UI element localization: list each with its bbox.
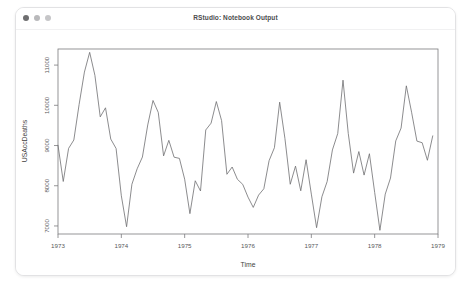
y-tick-label: 10000 — [43, 96, 50, 114]
y-axis-ticks: 7000800090001000011000 — [43, 56, 58, 233]
window-title: RStudio: Notebook Output — [16, 13, 455, 23]
series-line-usaccdeaths — [58, 52, 433, 230]
window-titlebar: RStudio: Notebook Output — [16, 8, 455, 30]
x-tick-label: 1979 — [431, 242, 445, 249]
x-tick-label: 1977 — [304, 242, 318, 249]
time-series-plot: 7000800090001000011000 19731974197519761… — [16, 30, 456, 276]
x-tick-label: 1978 — [368, 242, 382, 249]
y-tick-label: 7000 — [43, 219, 50, 233]
plot-frame — [58, 49, 438, 234]
x-axis-ticks: 1973197419751976197719781979 — [51, 234, 445, 249]
x-tick-label: 1973 — [51, 242, 65, 249]
y-tick-label: 8000 — [43, 178, 50, 192]
x-axis-title: Time — [241, 261, 256, 268]
y-tick-label: 11000 — [43, 56, 50, 73]
y-axis-title: USAccDeaths — [21, 119, 28, 162]
plot-pane: 7000800090001000011000 19731974197519761… — [16, 30, 456, 276]
x-tick-label: 1976 — [241, 242, 255, 249]
y-tick-label: 9000 — [43, 138, 50, 152]
x-tick-label: 1974 — [114, 242, 128, 249]
notebook-output-window: RStudio: Notebook Output 700080009000100… — [15, 7, 456, 276]
x-tick-label: 1975 — [178, 242, 192, 249]
